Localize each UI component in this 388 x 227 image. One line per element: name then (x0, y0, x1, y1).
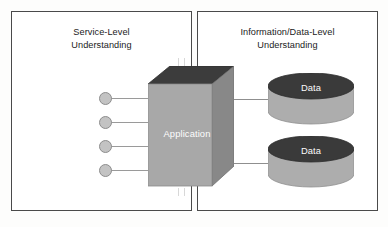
data-cylinder-1[interactable]: Data (268, 73, 354, 125)
service-interface-line-1 (111, 98, 153, 99)
panel-service-level-title-line1: Service-Level (73, 27, 129, 37)
panel-data-level-title: Information/Data-LevelUnderstanding (198, 26, 377, 51)
scan-artifact-bottom-1 (178, 188, 179, 196)
service-interface-circle-3[interactable] (99, 140, 112, 153)
service-interface-line-3 (111, 146, 153, 147)
panel-service-level-title-line2: Understanding (71, 40, 131, 50)
scan-artifact-top-2 (184, 58, 185, 66)
panel-data-level-title-line2: Understanding (257, 40, 317, 50)
data-cylinder-2[interactable]: Data (268, 136, 354, 188)
application-cube[interactable]: Application (148, 66, 234, 188)
service-interface-circle-1[interactable] (99, 92, 112, 105)
panel-data-level-title-line1: Information/Data-Level (240, 27, 334, 37)
service-interface-line-2 (111, 122, 153, 123)
service-interface-circle-2[interactable] (99, 116, 112, 129)
architecture-diagram: Service-LevelUnderstanding Information/D… (0, 0, 388, 227)
panel-service-level-title: Service-LevelUnderstanding (12, 26, 191, 51)
service-interface-line-4 (111, 170, 153, 171)
service-interface-circle-4[interactable] (99, 164, 112, 177)
scan-artifact-top-1 (178, 58, 179, 66)
scan-artifact-bottom-2 (184, 188, 185, 196)
